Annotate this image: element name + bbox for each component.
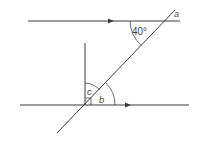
angle-a-label: a	[174, 9, 179, 19]
angle-c-label: c	[87, 86, 92, 97]
bottom-line-arrow-icon	[125, 103, 131, 108]
transversal-line	[57, 10, 175, 133]
geometry-diagram: 40° a c b	[0, 0, 204, 145]
angle-b-arc	[106, 83, 116, 106]
given-angle-label: 40°	[132, 26, 147, 37]
angle-b-label: b	[99, 94, 104, 105]
top-line-arrow-icon	[108, 19, 114, 24]
